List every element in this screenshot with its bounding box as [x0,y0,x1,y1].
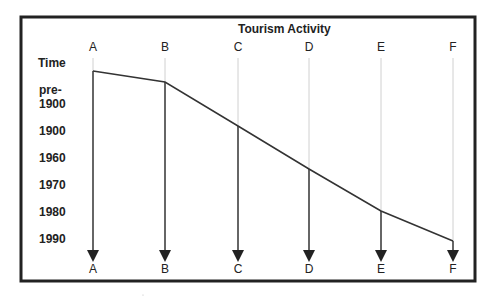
column-label-top: B [155,40,175,54]
column-label-bottom: E [371,262,391,276]
activity-line [93,71,453,241]
time-label-1900: 1900 [39,124,66,138]
arrow-down-icon [159,250,171,262]
column-label-bottom: F [443,262,463,276]
time-axis-heading: Time [38,56,66,70]
time-label-1970: 1970 [39,178,66,192]
column-label-top: D [299,40,319,54]
arrow-down-icon [232,250,244,262]
column-label-bottom: A [83,262,103,276]
column-guides [93,58,453,241]
column-arrows [87,71,459,262]
arrow-down-icon [87,250,99,262]
tourism-activity-diagram [0,0,496,296]
column-label-top: C [228,40,248,54]
arrow-down-icon [303,250,315,262]
time-label-1990: 1990 [39,232,66,246]
column-label-top: A [83,40,103,54]
column-label-bottom: D [299,262,319,276]
time-label-pre-1900: pre- 1900 [39,83,66,111]
time-label-1980: 1980 [39,205,66,219]
column-label-bottom: B [155,262,175,276]
speck [142,294,143,295]
diagram-frame [21,17,475,281]
diagram-title: Tourism Activity [238,22,331,36]
time-label-1960: 1960 [39,151,66,165]
arrow-down-icon [375,250,387,262]
column-label-top: F [443,40,463,54]
arrow-down-icon [447,250,459,262]
column-label-top: E [371,40,391,54]
column-label-bottom: C [228,262,248,276]
